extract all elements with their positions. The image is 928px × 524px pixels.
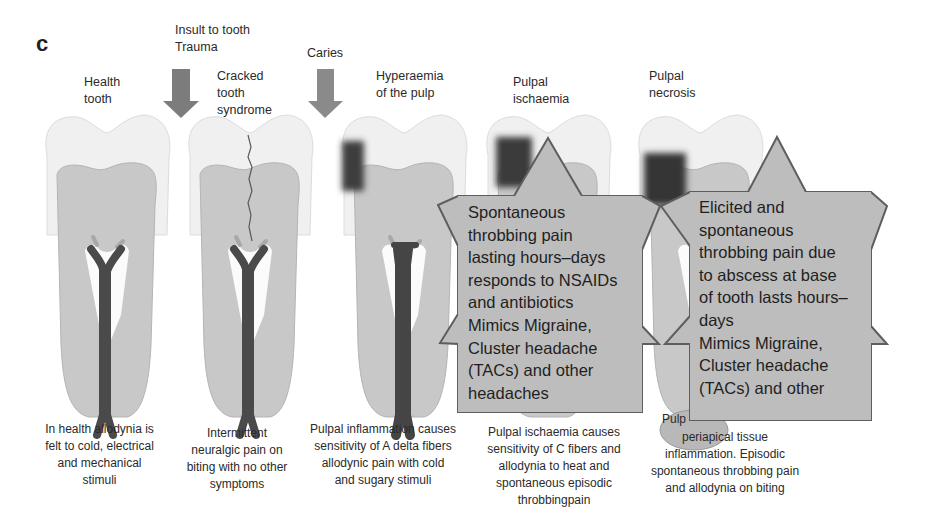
caption-ischaemia: Pulpal ischaemia causes sensitivity of C… — [474, 424, 634, 509]
caption-healthy: In health allodynia is felt to cold, ele… — [22, 421, 177, 489]
tooth-healthy — [46, 115, 170, 435]
caries-lesion — [342, 141, 364, 191]
caption-cracked: Intermittent neuralgic pain on biting wi… — [176, 425, 298, 493]
stage-title-hyperaemia: Hyperaemia of the pulp — [376, 68, 443, 102]
callout-text-ischaemia: Spontaneous throbbing pain lasting hours… — [468, 201, 617, 404]
panel-letter: c — [36, 31, 48, 57]
callout-text-necrosis: Elicited and spontaneous throbbing pain … — [699, 196, 848, 399]
stage-title-healthy: Health tooth — [84, 74, 120, 108]
insult-label: Insult to tooth Trauma — [175, 22, 250, 56]
arrow-caries-icon — [308, 69, 343, 118]
tooth-hyperaemia — [342, 115, 467, 435]
caries-label: Caries — [307, 45, 343, 62]
caption-necrosis: periapical tissue inflammation. Episodic… — [636, 429, 814, 497]
caption-necrosis-prefix: Pulp — [662, 411, 686, 428]
stage-title-cracked: Cracked tooth syndrome — [217, 68, 272, 119]
arrow-insult-icon — [163, 69, 199, 118]
stage-title-ischaemia: Pulpal ischaemia — [513, 74, 569, 108]
stage-title-necrosis: Pulpal necrosis — [649, 68, 696, 102]
tooth-cracked — [189, 115, 313, 435]
caption-hyperaemia: Pulpal inflammation causes sensitivity o… — [298, 421, 468, 489]
